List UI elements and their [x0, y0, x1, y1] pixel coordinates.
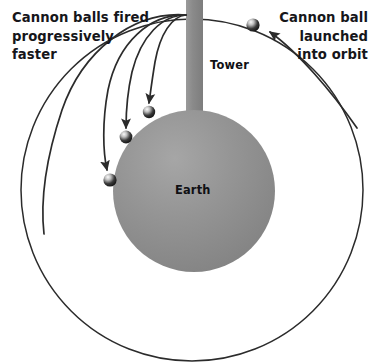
right-caption: Cannon ball launched into orbit: [208, 9, 368, 65]
earth-label: Earth: [175, 183, 211, 197]
newton-cannonball-diagram: Cannon balls fired progressively faster …: [0, 0, 375, 363]
left-caption: Cannon balls fired progressively faster: [12, 9, 187, 65]
cannonball-1: [143, 106, 155, 118]
cannonball-3: [103, 173, 116, 186]
tower-label: Tower: [210, 58, 249, 72]
cannonball-2: [120, 131, 133, 144]
